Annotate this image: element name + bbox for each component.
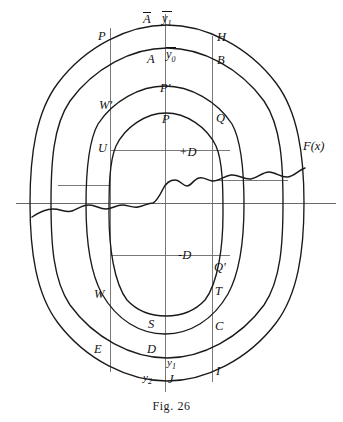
label-y1-bar: y1 — [162, 11, 172, 28]
label-b: B — [217, 54, 225, 67]
label-u: U — [98, 142, 107, 155]
label-y0: y0 — [166, 47, 176, 64]
figure-26: A y1 P H A y0 B P' W' P Q U +D F(x) -D Q… — [0, 0, 343, 422]
label-w-prime: W' — [99, 99, 112, 112]
label-s: S — [148, 318, 154, 331]
label-e: E — [94, 343, 102, 356]
label-p-prime: P' — [160, 82, 170, 95]
label-w: W — [94, 288, 104, 301]
f-of-x-curve — [32, 168, 305, 217]
label-q: Q — [216, 112, 225, 125]
label-p-inner: P — [162, 113, 170, 126]
label-q-prime: Q' — [214, 261, 226, 274]
label-d: D — [147, 343, 156, 356]
label-j: J — [168, 373, 174, 386]
label-plus-d: +D — [179, 146, 196, 159]
label-y1: y1 — [167, 357, 176, 371]
figure-caption: Fig. 26 — [0, 399, 343, 414]
label-c: C — [215, 320, 223, 333]
label-i: I — [216, 365, 220, 378]
label-f-of-x: F(x) — [303, 140, 325, 153]
label-t: T — [215, 285, 222, 298]
label-a: A — [147, 53, 155, 66]
inner-oval — [109, 113, 223, 316]
label-y2: y2 — [143, 372, 152, 386]
label-p-outer: P — [98, 30, 106, 43]
label-a-bar: A — [143, 12, 151, 26]
label-minus-d: -D — [178, 249, 191, 262]
label-h: H — [217, 31, 226, 44]
